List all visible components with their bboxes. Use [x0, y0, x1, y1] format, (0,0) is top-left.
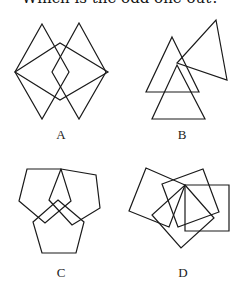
triangle-shape	[146, 37, 199, 92]
diamond-shape	[52, 23, 106, 119]
figures-canvas	[0, 0, 241, 285]
pentagon-shape	[49, 169, 100, 225]
option-label-a[interactable]: A	[56, 127, 65, 143]
triangle-shape	[177, 20, 227, 80]
option-label-c[interactable]: C	[57, 265, 66, 281]
figure-d-squares[interactable]	[129, 168, 229, 248]
figure-a-diamonds[interactable]	[15, 23, 108, 119]
option-label-d[interactable]: D	[178, 265, 187, 281]
figure-c-pentagons[interactable]	[19, 169, 100, 253]
square-shape	[129, 168, 185, 227]
option-label-b[interactable]: B	[178, 127, 187, 143]
figure-b-triangles[interactable]	[146, 20, 227, 119]
square-shape	[152, 185, 214, 248]
pentagon-shape	[33, 200, 84, 253]
diamond-shape	[15, 24, 69, 119]
